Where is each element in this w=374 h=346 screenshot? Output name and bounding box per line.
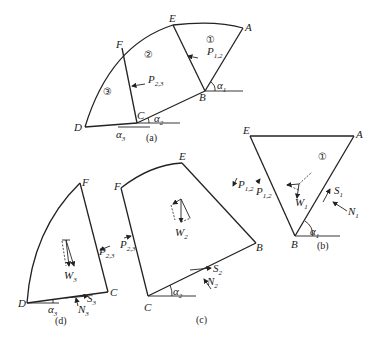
svg-text:N3: N3 [77,303,89,318]
point-f-label: F [115,38,123,50]
slice-2-label: ② [144,49,153,60]
svg-text:W2: W2 [175,226,188,241]
svg-text:E: E [242,124,250,136]
point-c-label: C [137,109,145,121]
svg-text:N1: N1 [347,205,359,220]
svg-text:α1: α1 [310,225,319,240]
point-d-label: D [73,121,82,133]
svg-text:α2: α2 [154,112,164,127]
svg-text:P1,2: P1,2 [255,185,272,200]
svg-text:α3: α3 [116,128,126,143]
panel-d: F C D W3 S3 N3 α3 P2,3 (d) [17,176,118,327]
svg-text:C: C [110,286,118,298]
caption-a: (a) [146,132,157,144]
svg-text:B: B [291,238,298,250]
svg-text:α2: α2 [173,285,183,300]
svg-text:D: D [17,297,26,309]
svg-text:W1: W1 [295,196,308,211]
panel-b: A B E ① W1 S1 N1 α1 P1,2 (b) [242,124,363,252]
point-b-label: B [199,91,206,103]
caption-c: (c) [196,314,207,326]
panel-a: ① ② ③ A B C D E F P1,2 P2,3 α1 α2 α3 (a) [73,12,252,144]
panel-c: E F B C W2 S2 N2 α2 P1,2 P2,3 (c) [113,150,263,326]
svg-text:B: B [256,241,263,253]
point-a-label: A [244,21,252,33]
svg-text:C: C [144,301,152,313]
svg-text:P1,2: P1,2 [206,45,223,60]
svg-text:P2,3: P2,3 [147,73,164,88]
caption-b: (b) [317,240,329,252]
svg-text:①: ① [318,151,327,162]
svg-text:F: F [81,176,89,188]
svg-text:S2: S2 [213,262,223,277]
svg-text:N2: N2 [206,275,218,290]
svg-text:W3: W3 [64,269,77,284]
slope-slice-diagram: ① ② ③ A B C D E F P1,2 P2,3 α1 α2 α3 (a)… [0,0,374,346]
slice-3-label: ③ [103,86,112,97]
svg-text:α1: α1 [217,79,226,94]
svg-text:A: A [355,128,363,140]
svg-text:P1,2: P1,2 [237,178,254,193]
slip-arc-a [85,23,243,127]
svg-text:F: F [113,180,121,192]
svg-text:E: E [178,150,186,162]
point-e-label: E [168,12,176,24]
slice-1-label: ① [206,34,215,45]
caption-d: (d) [55,315,67,327]
svg-text:S1: S1 [334,184,343,199]
